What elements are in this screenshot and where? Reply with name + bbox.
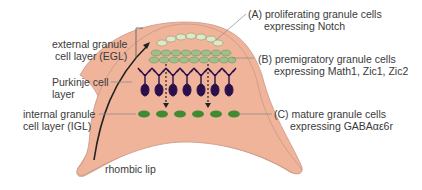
label-c: (C) mature granule cells expressing GABA… [274, 108, 393, 132]
rhombic-lip-label: rhombic lip [105, 163, 156, 175]
label-a: (A) proliferating granule cells expressi… [248, 8, 382, 32]
igl-label: internal granule cell layer (IGL) [23, 108, 95, 132]
purkinje-label: Purkinje cell layer [52, 76, 109, 100]
label-b: (B) premigratory granule cells expressin… [258, 53, 408, 77]
egl-label: external granule cell layer (EGL) [52, 38, 127, 62]
